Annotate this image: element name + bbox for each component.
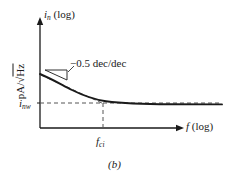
y-tick-label-noise-floor: inw <box>19 98 31 109</box>
x-tick-subscript: ci <box>99 140 104 149</box>
y-unit-radicand: Hz <box>13 64 26 77</box>
figure-caption: (b) <box>0 159 229 170</box>
radical-icon: √ <box>14 77 26 83</box>
y-axis-title: in (log) <box>44 9 75 20</box>
x-axis-scale-note: (log) <box>189 120 213 132</box>
y-axis <box>37 17 43 128</box>
slope-annotation: −0.5 dec/dec <box>70 58 126 69</box>
figure-panel: in (log) pA/√Hz −0.5 dec/dec inw fci f (… <box>0 0 229 180</box>
noise-spectrum-plot <box>0 0 229 180</box>
y-tick-subscript: nw <box>22 102 31 111</box>
x-axis <box>40 125 184 131</box>
y-axis-scale-note: (log) <box>51 8 75 20</box>
x-axis-title: f (log) <box>186 121 213 132</box>
y-axis-subscript: n <box>47 13 51 22</box>
x-tick-label-corner-frequency: fci <box>96 136 104 147</box>
